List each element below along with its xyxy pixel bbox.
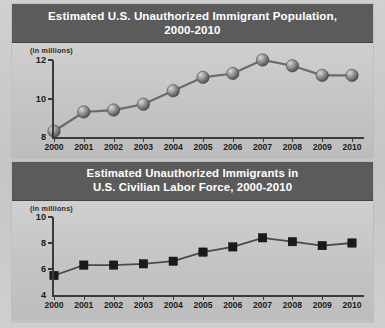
data-point-marker [256,54,268,66]
x-axis-tick-label: 2010 [342,300,361,310]
data-point-marker [107,104,119,116]
y-axis-tick-label: 12 [22,55,46,65]
data-point-marker [169,257,177,265]
x-axis-tick-label: 2008 [283,300,302,310]
y-axis-tick-label: 10 [22,94,46,104]
data-point-marker [139,259,147,267]
data-point-marker [227,68,239,80]
data-point-marker [197,71,209,83]
chart-panel-labor-force: Estimated Unauthorized Immigrants in U.S… [12,162,373,322]
x-axis-tick-label: 2009 [313,300,332,310]
data-point-marker [137,98,149,110]
x-axis-tick-label: 2010 [342,142,361,152]
data-point-marker [80,261,88,269]
x-axis-tick-label: 2002 [104,142,123,152]
y-axis-tick-mark [48,59,53,61]
y-axis-tick-mark [48,98,53,100]
chart-title-line-1: Estimated U.S. Unauthorized Immigrant Po… [18,9,367,23]
y-axis-tick-mark [48,268,53,270]
x-axis-tick-label: 2001 [74,300,93,310]
infographic-page: Estimated U.S. Unauthorized Immigrant Po… [0,0,385,328]
data-point-marker [258,233,266,241]
x-axis-tick-label: 2005 [193,300,212,310]
x-axis-tick-label: 2004 [164,142,183,152]
y-axis-tick-mark [48,216,53,218]
y-axis-tick-mark [48,242,53,244]
y-axis-tick-label: 8 [22,132,46,142]
x-axis-tick-label: 2005 [193,142,212,152]
data-point-marker [109,261,117,269]
x-axis-tick-label: 2006 [223,300,242,310]
y-axis-tick-label: 10 [22,212,46,222]
x-axis [52,137,364,139]
y-axis [52,217,54,295]
data-point-marker [167,85,179,97]
chart-title-line-1: Estimated Unauthorized Immigrants in [18,167,367,181]
plot-area-population: (in millions) 81012200020012002200320042… [12,43,373,159]
x-axis-tick-label: 2003 [134,142,153,152]
data-point-marker [286,60,298,72]
data-point-marker [316,69,328,81]
data-point-marker [346,69,358,81]
y-axis-tick-label: 6 [22,264,46,274]
chart-title-population: Estimated U.S. Unauthorized Immigrant Po… [12,4,373,43]
x-axis [52,295,364,297]
x-axis-tick-label: 2003 [134,300,153,310]
x-axis-tick-label: 2007 [253,142,272,152]
data-point-marker [348,239,356,247]
x-axis-tick-label: 2007 [253,300,272,310]
x-axis-tick-label: 2008 [283,142,302,152]
data-point-marker [199,248,207,256]
y-axis-tick-label: 8 [22,238,46,248]
y-axis-tick-label: 4 [22,290,46,300]
chart-title-labor-force: Estimated Unauthorized Immigrants in U.S… [12,162,373,201]
data-point-marker [288,237,296,245]
data-point-marker [318,241,326,249]
x-axis-tick-label: 2004 [164,300,183,310]
x-axis-tick-label: 2002 [104,300,123,310]
x-axis-tick-label: 2000 [44,142,63,152]
chart-title-line-2: U.S. Civilian Labor Force, 2000-2010 [18,181,367,195]
x-axis-tick-label: 2009 [313,142,332,152]
chart-panel-population: Estimated U.S. Unauthorized Immigrant Po… [12,4,373,156]
x-axis-tick-label: 2006 [223,142,242,152]
data-point-marker [78,106,90,118]
data-point-marker [229,243,237,251]
x-axis-tick-label: 2001 [74,142,93,152]
data-point-marker [48,125,60,137]
series-line [54,60,352,131]
chart-title-line-2: 2000-2010 [18,23,367,37]
series-line [54,238,352,276]
plot-area-labor-force: (in millions) 46810200020012002200320042… [12,201,373,319]
x-axis-tick-label: 2000 [44,300,63,310]
